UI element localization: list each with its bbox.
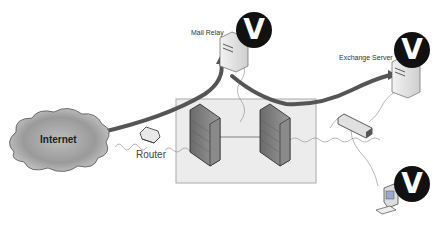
- mail-relay-label: Mail Relay: [191, 29, 224, 36]
- network-diagram: Internet Router Mail Relay Exchange Serv…: [0, 0, 440, 229]
- router-icon: [140, 127, 160, 143]
- mail-relay-v-badge: V: [236, 12, 272, 48]
- exchange-server-label: Exchange Server: [339, 54, 393, 61]
- workstation-v-badge: V: [394, 166, 430, 202]
- exchange-v-badge: V: [394, 32, 430, 68]
- switch-icon: [338, 114, 372, 138]
- router-label: Router: [136, 149, 166, 160]
- internet-label: Internet: [40, 134, 77, 145]
